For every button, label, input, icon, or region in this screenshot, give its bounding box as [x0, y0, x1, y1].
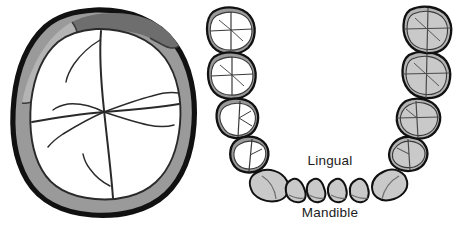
label-mandible: Mandible	[302, 205, 358, 220]
label-lingual: Lingual	[308, 153, 353, 168]
mandibular-molar-occlusal-view	[13, 10, 194, 215]
tooth-lr-first-molar	[397, 99, 440, 139]
tooth-ll-second-molar	[208, 52, 256, 98]
tooth-right-central-incisor	[328, 179, 347, 202]
dental-diagram-canvas: Lingual Mandible	[0, 0, 460, 228]
tooth-right-lateral-incisor	[350, 179, 369, 202]
tooth-lr-second-molar	[402, 52, 450, 99]
tooth-lr-third-molar	[403, 7, 451, 54]
tooth-left-central-incisor	[307, 179, 326, 202]
dental-diagram-figure: Lingual Mandible	[0, 0, 460, 228]
tooth-ll-third-molar	[207, 7, 255, 53]
tooth-ll-premolar	[230, 137, 268, 173]
tooth-lr-premolar	[389, 137, 427, 171]
tooth-left-canine	[250, 170, 289, 202]
tooth-ll-first-molar	[217, 99, 259, 139]
